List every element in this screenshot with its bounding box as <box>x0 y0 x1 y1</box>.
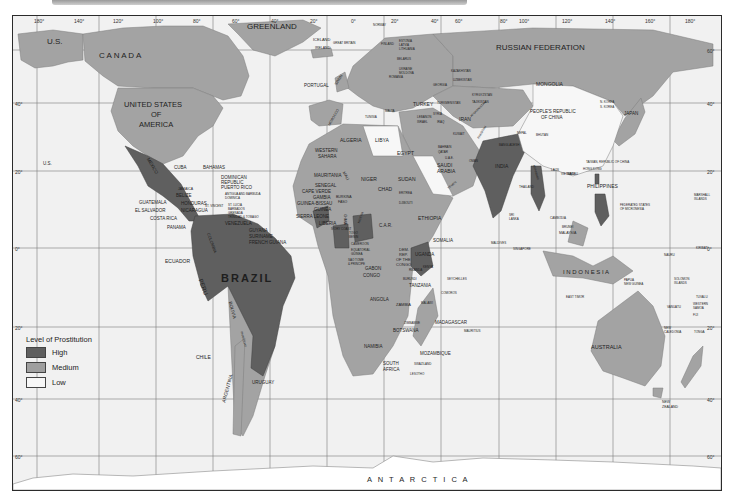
label-uzbekistan: UZBEKISTAN <box>453 79 472 82</box>
label-china-1: PEOPLE'S REPUBLIC <box>530 110 576 115</box>
label-algeria: ALGERIA <box>340 138 362 143</box>
label-finland: FINLAND <box>381 43 394 46</box>
label-north-korea: N. KOREA <box>600 101 614 104</box>
label-namibia: NAMIBIA <box>364 345 383 350</box>
label-honduras: HONDURAS <box>181 202 207 207</box>
label-syria: SYRIA <box>433 113 442 116</box>
label-mauritania: MAURITANIA <box>314 174 341 179</box>
label-malaysia: MALAYSIA <box>559 232 576 236</box>
label-guyana: GUYANA <box>249 229 268 234</box>
lat-tick: 60° <box>15 454 23 460</box>
lon-tick: 60° <box>232 18 240 24</box>
label-benin: BENIN <box>349 236 358 239</box>
caption-fragment <box>312 492 382 499</box>
label-australia: AUSTRALIA <box>591 345 622 351</box>
label-hong-kong: HONG KONG <box>583 168 602 171</box>
label-dominica: DOMINICA <box>225 197 240 200</box>
label-singapore: SINGAPORE <box>513 248 531 251</box>
label-guinea: GUINEA <box>314 208 331 213</box>
lat-tick: 20° <box>707 325 715 331</box>
label-equatorial-guinea-2: GUINEA <box>351 253 363 256</box>
label-micronesia-2: OF MICRONESIA <box>620 208 644 211</box>
label-israel: ISRAEL <box>417 121 428 124</box>
label-guinea-bissau: GUINEA-BISSAU <box>297 202 332 207</box>
label-nicaragua: NICARAGUA <box>181 209 208 214</box>
label-chad: CHAD <box>378 187 392 192</box>
label-ireland: IRELAND <box>315 47 330 51</box>
label-thailand: THAILAND <box>519 186 534 189</box>
label-taiwan: TAIWAN, REPUBLIC OF CHINA <box>586 161 629 164</box>
label-zimbabwe: ZIMBABWE <box>404 322 420 325</box>
label-maldives: MALDIVES <box>491 242 506 245</box>
label-ghana: GHANA <box>343 214 346 225</box>
lon-tick: 80° <box>500 18 508 24</box>
label-car: C.A.R. <box>379 224 392 229</box>
label-swaziland: SWAZILAND <box>414 363 431 366</box>
lon-tick: 140° <box>74 18 84 24</box>
lat-tick: 60° <box>707 454 715 460</box>
label-turkmenistan: TURKMENISTAN <box>437 102 460 105</box>
legend: Level of Prostitution High Medium Low <box>26 335 106 391</box>
label-cameroon: CAMEROON <box>351 243 369 246</box>
label-uganda: UGANDA <box>415 253 434 258</box>
lon-tick: 140° <box>605 18 615 24</box>
label-japan: JAPAN <box>624 112 638 117</box>
antarctica-shape <box>13 456 721 490</box>
label-png-2: NEW GUINEA <box>624 283 643 286</box>
label-cuba: CUBA <box>174 166 187 171</box>
label-russia: RUSSIAN FEDERATION <box>496 44 585 52</box>
world-map: 180° 140° 120° 100° 80° 60° 40° 20° 0° 2… <box>12 15 722 491</box>
label-china-2: OF CHINA <box>541 116 563 121</box>
label-gambia: GAMBIA <box>313 196 331 201</box>
label-madagascar: MADAGASCAR <box>435 321 467 326</box>
label-uruguay: URUGUAY <box>252 381 274 386</box>
label-fiji: FIJI <box>693 314 698 317</box>
label-western-sahara-1: WESTERN <box>315 149 338 154</box>
label-mozambique: MOZAMBIQUE <box>420 352 451 357</box>
label-nepal: NEPAL <box>517 132 527 135</box>
label-drc-4: CONGO <box>396 263 411 267</box>
label-liberia: LIBERIA <box>319 222 336 227</box>
label-tunisia: TUNISIA <box>365 116 377 119</box>
lon-tick: 160° <box>645 18 655 24</box>
label-western-sahara-2: SAHARA <box>318 155 337 160</box>
label-new-caledonia-2: CALEDONIA <box>664 331 681 334</box>
label-sri-lanka-2: LANKA <box>509 218 519 221</box>
label-solomon-2: ISLANDS <box>674 282 687 285</box>
label-botswana: BOTSWANA <box>393 329 419 334</box>
lon-tick: 0° <box>351 18 356 24</box>
label-kazakhstan: KAZAKHSTAN <box>451 70 471 73</box>
lon-tick: 20° <box>310 18 318 24</box>
label-cambodia: CAMBODIA <box>550 217 566 220</box>
label-canada: C A N A D A <box>99 52 141 60</box>
label-iran: IRAN <box>459 117 471 122</box>
label-mauritius: MAURITIUS <box>464 330 481 333</box>
label-qatar: QATAR <box>438 151 448 154</box>
label-bahamas: BAHAMAS <box>203 166 225 171</box>
lon-tick: 120° <box>113 18 123 24</box>
label-tanzania: TANZANIA <box>409 284 431 289</box>
label-tonga: TONGA <box>694 331 705 334</box>
label-indonesia: I N D O N E S I A <box>563 269 609 275</box>
lon-tick: 180° <box>34 18 44 24</box>
label-trinidad: TRINIDAD & TOBAGO <box>228 216 259 219</box>
label-belarus: BELARUS <box>397 58 411 61</box>
label-angola: ANGOLA <box>370 298 389 303</box>
label-seychelles: SEYCHELLES <box>447 278 467 281</box>
label-south-korea: S. KOREA <box>600 106 614 109</box>
legend-swatch-low <box>26 377 46 388</box>
label-western-samoa-2: SAMOA <box>693 307 704 310</box>
label-usa-2: OF <box>151 111 161 119</box>
lon-tick: 180° <box>685 18 695 24</box>
lon-tick: 20° <box>391 18 399 24</box>
label-eritrea: ERITREA <box>399 192 412 195</box>
lon-tick: 100° <box>519 18 529 24</box>
label-usa-3: AMERICA <box>139 121 173 129</box>
lon-tick: 80° <box>193 18 201 24</box>
label-venezuela: VENEZUELA <box>225 222 252 227</box>
label-south-africa-2: AFRICA <box>383 368 400 373</box>
label-congo: CONGO <box>363 274 380 279</box>
label-norway: NORWAY <box>373 24 386 27</box>
label-laos: LAOS <box>551 169 559 172</box>
label-macau: MACAU <box>567 173 578 176</box>
